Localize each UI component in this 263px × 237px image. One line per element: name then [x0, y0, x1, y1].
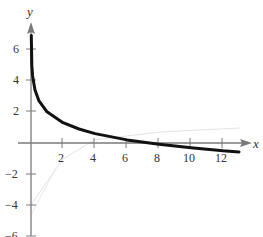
x-tick-label: 6 [122, 151, 128, 165]
y-tick-label: 2 [13, 104, 19, 118]
x-axis-label: x [252, 136, 259, 151]
x-tick-label: 10 [183, 151, 195, 165]
y-axis-label: y [25, 4, 33, 19]
y-tick-label: 6 [13, 42, 19, 56]
y-tick-label: −2 [5, 167, 18, 181]
x-tick-label: 12 [215, 151, 227, 165]
y-tick-label: −4 [5, 198, 18, 212]
log-graph: x y 2 4 6 8 10 12 6 4 2 −2 −4 −6 [0, 0, 263, 237]
x-tick-label: 2 [58, 151, 64, 165]
x-tick-label: 8 [154, 151, 160, 165]
x-tick-label: 4 [90, 151, 96, 165]
faint-ghost-line-2 [31, 170, 55, 215]
y-tick-label: −6 [5, 229, 18, 237]
y-tick-label: 4 [13, 73, 19, 87]
curve-line [31, 35, 239, 151]
